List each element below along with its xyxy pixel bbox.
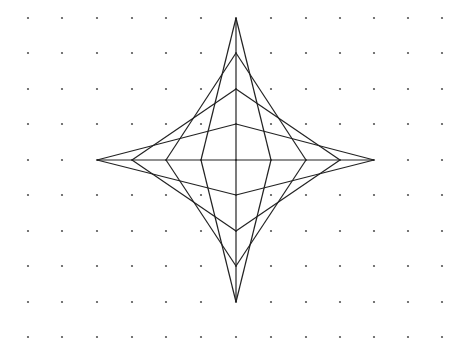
star-segment: [97, 160, 236, 195]
grid-dot: [27, 336, 29, 338]
grid-dot: [131, 52, 133, 54]
star-segment: [201, 18, 236, 160]
grid-dot: [407, 88, 409, 90]
grid-dot: [305, 123, 307, 125]
grid-dot: [407, 336, 409, 338]
grid-dot: [165, 52, 167, 54]
grid-dot: [131, 17, 133, 19]
grid-dot: [27, 159, 29, 161]
grid-dot: [373, 230, 375, 232]
grid-dot: [61, 159, 63, 161]
grid-dot: [200, 265, 202, 267]
grid-dot: [96, 123, 98, 125]
grid-dot: [96, 194, 98, 196]
grid-dot: [200, 17, 202, 19]
grid-dot: [200, 301, 202, 303]
grid-dot: [305, 52, 307, 54]
grid-dot: [96, 52, 98, 54]
star-diagram: [0, 0, 466, 356]
grid-dot: [61, 123, 63, 125]
star-segment: [236, 18, 271, 160]
dot-grid: [27, 17, 443, 338]
grid-dot: [270, 336, 272, 338]
grid-dot: [339, 194, 341, 196]
grid-dot: [373, 336, 375, 338]
grid-dot: [96, 17, 98, 19]
grid-dot: [407, 52, 409, 54]
grid-dot: [131, 230, 133, 232]
grid-dot: [96, 336, 98, 338]
grid-dot: [165, 194, 167, 196]
grid-dot: [373, 123, 375, 125]
star-segment: [97, 124, 236, 160]
grid-dot: [27, 265, 29, 267]
grid-dot: [235, 336, 237, 338]
grid-dot: [165, 336, 167, 338]
grid-dot: [270, 52, 272, 54]
grid-dot: [373, 265, 375, 267]
star-segment: [201, 160, 236, 302]
grid-dot: [407, 159, 409, 161]
grid-dot: [441, 336, 443, 338]
grid-dot: [339, 301, 341, 303]
star-segment: [236, 160, 340, 231]
grid-dot: [165, 123, 167, 125]
grid-dot: [27, 17, 29, 19]
grid-dot: [61, 194, 63, 196]
grid-dot: [441, 159, 443, 161]
grid-dot: [165, 88, 167, 90]
grid-dot: [61, 265, 63, 267]
star-segment: [236, 160, 374, 195]
grid-dot: [165, 265, 167, 267]
grid-dot: [407, 301, 409, 303]
grid-dot: [270, 265, 272, 267]
grid-dot: [305, 230, 307, 232]
grid-dot: [61, 336, 63, 338]
grid-dot: [61, 230, 63, 232]
grid-dot: [339, 123, 341, 125]
grid-dot: [441, 17, 443, 19]
grid-dot: [441, 88, 443, 90]
star-segment: [166, 53, 236, 160]
grid-dot: [339, 52, 341, 54]
grid-dot: [270, 88, 272, 90]
grid-dot: [407, 123, 409, 125]
grid-dot: [305, 336, 307, 338]
grid-dot: [373, 88, 375, 90]
grid-dot: [131, 88, 133, 90]
grid-dot: [200, 230, 202, 232]
grid-dot: [96, 301, 98, 303]
star-segment: [236, 53, 306, 160]
grid-dot: [131, 265, 133, 267]
grid-dot: [165, 301, 167, 303]
star-segment: [236, 124, 374, 160]
grid-dot: [305, 17, 307, 19]
grid-dot: [339, 17, 341, 19]
grid-dot: [165, 17, 167, 19]
grid-dot: [305, 301, 307, 303]
grid-dot: [305, 88, 307, 90]
grid-dot: [373, 17, 375, 19]
grid-dot: [407, 17, 409, 19]
grid-dot: [339, 230, 341, 232]
grid-dot: [339, 336, 341, 338]
grid-dot: [200, 336, 202, 338]
grid-dot: [61, 52, 63, 54]
grid-dot: [270, 194, 272, 196]
grid-dot: [61, 301, 63, 303]
grid-dot: [200, 123, 202, 125]
grid-dot: [441, 265, 443, 267]
grid-dot: [131, 336, 133, 338]
grid-dot: [270, 17, 272, 19]
grid-dot: [27, 194, 29, 196]
grid-dot: [200, 52, 202, 54]
grid-dot: [270, 123, 272, 125]
grid-dot: [305, 265, 307, 267]
grid-dot: [200, 88, 202, 90]
grid-dot: [441, 194, 443, 196]
grid-dot: [96, 230, 98, 232]
axes: [97, 18, 374, 302]
star-segment: [132, 160, 236, 231]
grid-dot: [441, 123, 443, 125]
grid-dot: [27, 230, 29, 232]
